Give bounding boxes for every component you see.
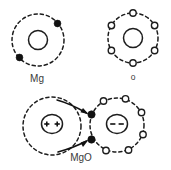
o-ion-electron (103, 147, 109, 153)
mg-atom-nucleus (29, 31, 48, 50)
transferred-electron (88, 136, 95, 143)
transferred-electron (88, 111, 95, 118)
o-atom-electron (108, 22, 114, 28)
o-atom-electron (108, 47, 114, 53)
mgo-compound-label: MgO (70, 152, 92, 163)
o-atom-nucleus (124, 29, 143, 48)
mg-atom-electron (16, 54, 23, 61)
o-atom-electron (151, 22, 157, 28)
figure-canvas: Mg o (0, 0, 171, 170)
mgo-bonding-figure: Mg o (0, 0, 171, 170)
o-ion-electron (122, 96, 128, 102)
o-ion-nucleus (107, 115, 128, 134)
o-atom-electron (130, 10, 136, 16)
mg-atom-electron (54, 20, 61, 27)
o-atom-label: o (131, 72, 136, 82)
o-ion-electron (100, 98, 106, 104)
mg-atom-label: Mg (30, 73, 44, 84)
o-atom-electron (151, 47, 157, 53)
o-ion-electron (125, 147, 131, 153)
figure-background (0, 0, 171, 170)
o-ion-electron (140, 131, 146, 137)
o-ion-electron (138, 109, 144, 115)
o-atom-electron (130, 60, 136, 66)
